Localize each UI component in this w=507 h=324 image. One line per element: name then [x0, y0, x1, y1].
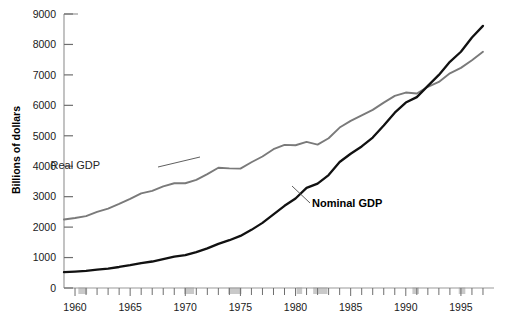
x-tick-label: 1995: [449, 301, 473, 313]
y-axis-title: Billions of dollars: [10, 106, 22, 194]
x-tick-label: 1980: [284, 301, 308, 313]
chart-canvas: 0100020003000400050006000700080009000 19…: [0, 0, 507, 324]
x-tick-label: 1960: [63, 301, 87, 313]
x-tick-label: 1990: [394, 301, 418, 313]
y-tick-label: 5000: [33, 130, 57, 142]
x-tick-label: 1985: [339, 301, 363, 313]
y-tick-label: 8000: [33, 38, 57, 50]
y-tick-label: 9000: [33, 8, 57, 20]
y-tick-label: 3000: [33, 190, 57, 202]
series-label-nominal-gdp: Nominal GDP: [312, 197, 382, 209]
y-tick-label: 7000: [33, 69, 57, 81]
y-tick-label: 6000: [33, 99, 57, 111]
y-tick-label: 0: [50, 282, 56, 294]
series-label-real-gdp: Real GDP: [50, 159, 100, 171]
gdp-chart: 0100020003000400050006000700080009000 19…: [0, 0, 507, 324]
x-tick-label: 1975: [229, 301, 253, 313]
x-tick-label: 1965: [118, 301, 142, 313]
y-tick-label: 2000: [33, 221, 57, 233]
x-tick-label: 1970: [174, 301, 198, 313]
y-tick-label: 1000: [33, 251, 57, 263]
